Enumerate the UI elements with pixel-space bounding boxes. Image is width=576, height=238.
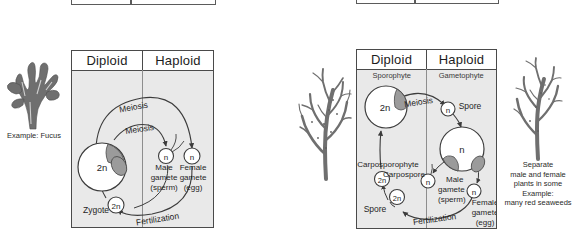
right-caption-line-4: Example: <box>500 189 576 199</box>
label-male-2: gamete <box>151 173 178 182</box>
right-header-haploid: Haploid <box>427 50 496 69</box>
label-carposporophyte: Carposporophyte <box>357 160 419 169</box>
left-cycle-svg: 2n n n 2n Meiosis Meiosis Fertilization … <box>72 70 213 227</box>
red-seaweed-illustration-right <box>512 55 564 160</box>
figure-canvas: 1 Sun 1 Sun Example: Fucus Diploid <box>0 0 576 238</box>
label-spore-top: Spore <box>459 101 482 111</box>
label-carpospore: Carpospore <box>383 170 425 179</box>
left-caption-text: Example: Fucus <box>7 131 61 140</box>
label-male-1-right: Male <box>446 175 464 184</box>
label-zygote: Zygote <box>83 205 109 215</box>
right-cut-box: 1 Sun <box>356 0 499 4</box>
label-female-1: Female <box>180 163 207 172</box>
left-header-diploid: Diploid <box>72 51 143 70</box>
label-male-3-right: (sperm) <box>438 195 466 204</box>
left-panel-header: Diploid Haploid <box>72 51 213 71</box>
male-gamete-n-right: n <box>426 178 430 187</box>
label-female-1-right: Female <box>472 198 496 207</box>
red-seaweed-life-cycle-panel: Diploid Haploid Sporophyte Gametophyte <box>356 49 497 229</box>
label-meiosis-outer: Meiosis <box>118 100 148 115</box>
right-panel-body: Sporophyte Gametophyte <box>357 69 496 228</box>
label-male-1: Male <box>155 163 173 172</box>
right-panel-header: Diploid Haploid <box>357 50 496 70</box>
female-gamete-n-right: n <box>472 188 476 197</box>
label-female-2-right: gamete <box>472 208 496 217</box>
right-panel-caption: Separate male and female plants in some … <box>500 160 576 208</box>
sporophyte-label: 2n <box>380 102 391 113</box>
zygote-n: 2n <box>112 202 121 211</box>
left-panel-body: 2n n n 2n Meiosis Meiosis Fertilization … <box>72 70 213 227</box>
right-caption-line-1: Separate <box>500 160 576 170</box>
fucus-life-cycle-panel: Diploid Haploid <box>71 50 214 228</box>
spore-bottom-2n: 2n <box>393 194 401 203</box>
left-cut-box: 1 Sun <box>71 0 216 5</box>
red-seaweed-illustration-left <box>296 62 354 180</box>
label-fertilization: Fertilization <box>135 211 180 227</box>
female-gamete-n: n <box>190 153 194 162</box>
label-meiosis-right: Meiosis <box>404 95 434 109</box>
label-male-3: (sperm) <box>150 183 178 192</box>
right-header-diploid: Diploid <box>357 50 427 69</box>
spore-top-n: n <box>446 106 450 115</box>
right-caption-line-3: plants in some <box>500 179 576 189</box>
cut-box-divider <box>130 0 132 4</box>
male-gamete-n: n <box>164 153 168 162</box>
right-cycle-svg: 2n n Spore n n n 2n <box>357 69 496 228</box>
label-female-2: gamete <box>180 173 207 182</box>
right-caption-line-5: many red seaweeds <box>500 198 576 208</box>
fucus-illustration <box>2 52 64 130</box>
cut-box-divider <box>414 0 416 3</box>
label-male-2-right: gamete <box>438 185 465 194</box>
left-panel-caption: Example: Fucus <box>0 131 68 141</box>
left-header-haploid: Haploid <box>143 51 213 70</box>
right-caption-line-2: male and female <box>500 170 576 180</box>
label-spore-bottom: Spore <box>364 204 387 214</box>
label-female-3: (egg) <box>184 183 203 192</box>
label-meiosis-inner: Meiosis <box>125 122 155 136</box>
diploid-cell-label: 2n <box>97 162 108 173</box>
label-female-3-right: (egg) <box>476 218 495 227</box>
gametophyte-label: n <box>459 144 464 155</box>
label-fertilization-right: Fertilization <box>412 211 457 227</box>
